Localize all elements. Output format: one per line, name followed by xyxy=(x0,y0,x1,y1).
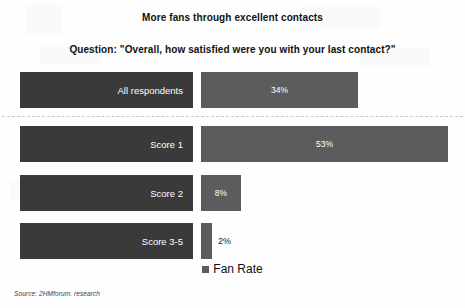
category-label-bar: All respondents xyxy=(20,72,193,108)
page-title: More fans through excellent contacts xyxy=(0,12,465,23)
value-label: 34% xyxy=(271,85,288,95)
chart-slide: More fans through excellent contacts Que… xyxy=(0,0,465,308)
value-bar: 34% xyxy=(201,72,358,108)
chart-subtitle-question: Question: "Overall, how satisfied were y… xyxy=(0,44,465,55)
chart-legend: Fan Rate xyxy=(0,262,465,276)
value-label: 53% xyxy=(316,139,333,149)
value-bar: 8% xyxy=(201,175,241,211)
category-label: All respondents xyxy=(118,85,183,96)
value-bar: 53% xyxy=(201,126,448,162)
category-label-bar: Score 2 xyxy=(20,175,193,211)
bar-chart-plot-area: All respondents 34% Score 1 53% Score 2 … xyxy=(0,70,465,265)
value-label: 2% xyxy=(218,223,231,259)
chart-row: Score 3-5 2% xyxy=(0,223,465,259)
category-label-bar: Score 1 xyxy=(20,126,193,162)
category-label: Score 3-5 xyxy=(142,236,183,247)
chart-row: Score 2 8% xyxy=(0,175,465,211)
category-label: Score 2 xyxy=(150,188,183,199)
legend-item-label: Fan Rate xyxy=(213,262,262,276)
source-note: Source: 2HMforum. research xyxy=(14,290,100,297)
chart-row: Score 1 53% xyxy=(0,126,465,162)
legend-swatch-fan-rate-icon xyxy=(202,266,209,273)
category-label-bar: Score 3-5 xyxy=(20,223,193,259)
chart-row: All respondents 34% xyxy=(0,72,465,108)
value-label: 8% xyxy=(215,188,227,198)
value-bar xyxy=(201,223,212,259)
category-label: Score 1 xyxy=(150,139,183,150)
